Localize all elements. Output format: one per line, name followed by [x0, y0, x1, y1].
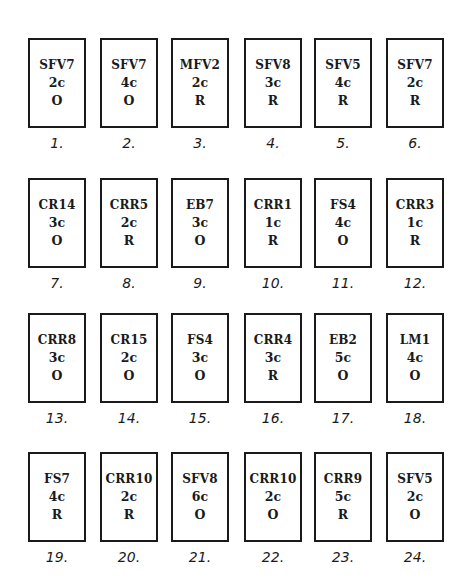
- card-count: 3c: [49, 349, 66, 367]
- card-21: SFV86cO: [171, 452, 229, 542]
- card-type: R: [124, 232, 135, 250]
- card-code: CRR9: [324, 470, 363, 488]
- card-3: MFV22cR: [171, 38, 229, 128]
- card-number-label: 10.: [244, 275, 302, 291]
- card-code: SFV8: [255, 56, 291, 74]
- card-type: O: [194, 232, 205, 250]
- card-17: EB25cO: [314, 313, 372, 403]
- card-count: 3c: [265, 74, 282, 92]
- card-count: 5c: [335, 349, 352, 367]
- card-18: LM14cO: [386, 313, 444, 403]
- card-11: FS44cO: [314, 178, 372, 268]
- card-type: R: [52, 506, 63, 524]
- card-number-label: 23.: [314, 549, 372, 565]
- card-type: O: [337, 232, 348, 250]
- card-code: SFV7: [39, 56, 75, 74]
- card-type: R: [268, 92, 279, 110]
- card-number-label: 5.: [314, 135, 372, 151]
- card-count: 5c: [335, 488, 352, 506]
- card-number-label: 11.: [314, 275, 372, 291]
- card-count: 2c: [121, 349, 138, 367]
- card-count: 2c: [192, 74, 209, 92]
- card-number-label: 16.: [244, 410, 302, 426]
- card-type: O: [409, 367, 420, 385]
- card-number-label: 7.: [28, 275, 86, 291]
- card-2: SFV74cO: [100, 38, 158, 128]
- card-count: 2c: [407, 488, 424, 506]
- card-type: O: [267, 506, 278, 524]
- card-type: O: [194, 367, 205, 385]
- card-number-label: 20.: [100, 549, 158, 565]
- card-count: 2c: [121, 214, 138, 232]
- card-12: CRR31cR: [386, 178, 444, 268]
- card-count: 4c: [49, 488, 66, 506]
- card-type: O: [123, 92, 134, 110]
- card-code: CR14: [38, 196, 75, 214]
- card-4: SFV83cR: [244, 38, 302, 128]
- card-code: CRR10: [249, 470, 296, 488]
- card-24: SFV52cO: [386, 452, 444, 542]
- card-number-label: 6.: [386, 135, 444, 151]
- card-type: R: [268, 232, 279, 250]
- card-count: 4c: [335, 214, 352, 232]
- card-number-label: 19.: [28, 549, 86, 565]
- card-15: FS43cO: [171, 313, 229, 403]
- card-8: CRR52cR: [100, 178, 158, 268]
- card-code: CRR1: [254, 196, 293, 214]
- card-type: O: [51, 92, 62, 110]
- card-code: CRR4: [254, 331, 293, 349]
- card-number-label: 8.: [100, 275, 158, 291]
- card-code: CR15: [110, 331, 147, 349]
- card-count: 4c: [335, 74, 352, 92]
- card-10: CRR11cR: [244, 178, 302, 268]
- card-23: CRR95cR: [314, 452, 372, 542]
- card-count: 4c: [407, 349, 424, 367]
- card-number-label: 18.: [386, 410, 444, 426]
- card-code: SFV7: [397, 56, 433, 74]
- card-6: SFV72cR: [386, 38, 444, 128]
- card-1: SFV72cO: [28, 38, 86, 128]
- card-code: CRR8: [38, 331, 77, 349]
- card-code: SFV8: [182, 470, 218, 488]
- card-type: O: [409, 506, 420, 524]
- card-9: EB73cO: [171, 178, 229, 268]
- card-number-label: 3.: [171, 135, 229, 151]
- card-code: SFV7: [111, 56, 147, 74]
- card-number-label: 15.: [171, 410, 229, 426]
- card-number-label: 22.: [244, 549, 302, 565]
- card-13: CRR83cO: [28, 313, 86, 403]
- card-number-label: 12.: [386, 275, 444, 291]
- card-22: CRR102cO: [244, 452, 302, 542]
- card-count: 1c: [407, 214, 424, 232]
- card-count: 6c: [192, 488, 209, 506]
- card-type: O: [194, 506, 205, 524]
- card-code: CRR3: [396, 196, 435, 214]
- card-count: 2c: [265, 488, 282, 506]
- card-number-label: 13.: [28, 410, 86, 426]
- card-count: 3c: [265, 349, 282, 367]
- card-count: 3c: [192, 349, 209, 367]
- card-code: CRR5: [110, 196, 149, 214]
- card-code: LM1: [400, 331, 431, 349]
- card-number-label: 2.: [100, 135, 158, 151]
- card-type: R: [338, 506, 349, 524]
- card-type: O: [123, 367, 134, 385]
- card-5: SFV54cR: [314, 38, 372, 128]
- card-number-label: 17.: [314, 410, 372, 426]
- card-number-label: 1.: [28, 135, 86, 151]
- card-count: 2c: [49, 74, 66, 92]
- card-type: O: [337, 367, 348, 385]
- card-code: SFV5: [325, 56, 361, 74]
- card-count: 2c: [121, 488, 138, 506]
- card-count: 3c: [192, 214, 209, 232]
- card-type: R: [124, 506, 135, 524]
- card-type: R: [195, 92, 206, 110]
- card-number-label: 4.: [244, 135, 302, 151]
- card-number-label: 9.: [171, 275, 229, 291]
- card-20: CRR102cR: [100, 452, 158, 542]
- card-type: O: [51, 232, 62, 250]
- card-code: FS7: [44, 470, 70, 488]
- card-14: CR152cO: [100, 313, 158, 403]
- card-number-label: 21.: [171, 549, 229, 565]
- card-count: 4c: [121, 74, 138, 92]
